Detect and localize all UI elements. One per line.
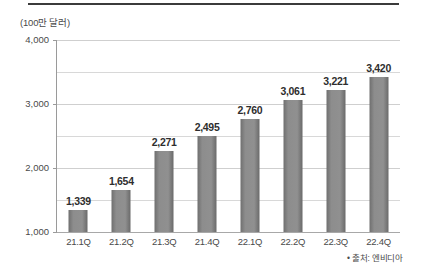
x-axis-tick-label: 21.4Q bbox=[186, 236, 229, 247]
x-axis-tick-label: 21.3Q bbox=[143, 236, 186, 247]
x-axis-tick-label: 22.1Q bbox=[229, 236, 272, 247]
chart-figure: (100만 달러) 1,0002,0003,0004,000 1,3391,65… bbox=[0, 0, 421, 273]
source-note: • 출처: 엔비디아 bbox=[347, 251, 403, 263]
y-axis-tick-labels: 1,0002,0003,0004,000 bbox=[0, 0, 53, 273]
x-axis-tick-labels: 21.1Q21.2Q21.3Q21.4Q22.1Q22.2Q22.3Q22.4Q bbox=[57, 0, 400, 273]
y-axis-tick-label: 4,000 bbox=[9, 34, 49, 45]
x-axis-tick-label: 22.4Q bbox=[357, 236, 400, 247]
x-axis-tick-label: 21.1Q bbox=[57, 236, 100, 247]
x-axis-tick-label: 21.2Q bbox=[100, 236, 143, 247]
x-axis-tick-label: 22.3Q bbox=[314, 236, 357, 247]
x-axis-tick-label: 22.2Q bbox=[271, 236, 314, 247]
y-axis-tick-label: 2,000 bbox=[9, 162, 49, 173]
y-axis-tick-label: 1,000 bbox=[9, 226, 49, 237]
y-axis-tick-label: 3,000 bbox=[9, 98, 49, 109]
